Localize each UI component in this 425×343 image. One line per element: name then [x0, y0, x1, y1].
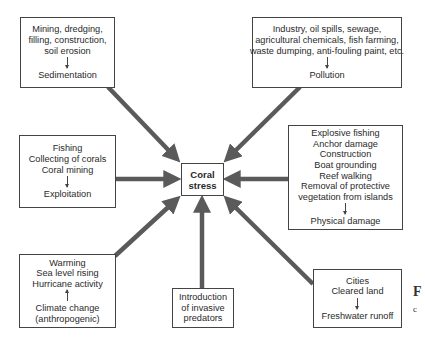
figure-caption-label: F — [413, 284, 422, 300]
cause-text: Reef walking — [319, 171, 372, 182]
cause-text: Boat grounding — [314, 160, 376, 171]
cause-text: Introduction — [179, 292, 227, 303]
cause-text: Fishing — [53, 143, 83, 154]
up-arrow-icon — [67, 290, 68, 301]
cause-text: Removal of protective — [301, 181, 390, 192]
center-text: stress — [189, 180, 217, 191]
result-text: Exploitation — [44, 189, 92, 200]
box-physical-damage: Explosive fishing Anchor damage Construc… — [288, 125, 403, 230]
result-text: (anthropogenic) — [35, 314, 99, 325]
down-arrow-icon — [345, 203, 346, 214]
result-text: Sedimentation — [38, 70, 97, 81]
result-text: Freshwater runoff — [322, 311, 394, 322]
cause-text: Coral mining — [42, 165, 94, 176]
cause-text: Mining, dredging, — [32, 24, 102, 35]
cause-text: Hurricane activity — [32, 279, 102, 290]
cause-text: Industry, oil spills, sewage, — [273, 24, 382, 35]
result-text: Pollution — [309, 70, 344, 81]
cause-text: Collecting of corals — [29, 154, 107, 165]
cause-text: Cleared land — [331, 286, 383, 297]
cause-text: waste dumping, anti-fouling paint, etc. — [250, 46, 404, 57]
cause-text: agricultural chemicals, fish farming, — [255, 35, 398, 46]
cause-text: Cities — [346, 276, 369, 287]
down-arrow-icon — [67, 176, 68, 187]
box-coral-stress: Coral stress — [181, 163, 224, 196]
box-exploitation: Fishing Collecting of corals Coral minin… — [19, 135, 116, 208]
down-arrow-icon — [67, 57, 68, 68]
arrow-climate-change — [115, 200, 176, 256]
cause-text: Construction — [320, 149, 372, 160]
center-text: Coral — [190, 169, 214, 180]
down-arrow-icon — [357, 298, 358, 309]
cause-text: Anchor damage — [313, 139, 378, 150]
result-text: Physical damage — [311, 216, 381, 227]
cause-text: Sea level rising — [36, 268, 98, 279]
cause-text: Warming — [49, 258, 85, 269]
cause-text: Explosive fishing — [311, 128, 379, 139]
cause-text: vegetation from islands — [298, 192, 392, 203]
cause-text: of invasive — [181, 303, 224, 314]
cause-text: soil erosion — [44, 46, 90, 57]
box-pollution: Industry, oil spills, sewage, agricultur… — [252, 17, 402, 88]
arrow-sedimentation — [108, 87, 176, 158]
cause-text: filling, construction, — [28, 35, 106, 46]
box-climate-change: Warming Sea level rising Hurricane activ… — [19, 254, 116, 328]
result-text: Climate change — [36, 303, 100, 314]
cause-text: predators — [184, 313, 223, 324]
box-invasive-predators: Introduction of invasive predators — [172, 288, 234, 328]
figure-caption-text: c — [413, 304, 417, 314]
box-sedimentation: Mining, dredging, filling, construction,… — [20, 17, 115, 88]
box-freshwater-runoff: Cities Cleared land Freshwater runoff — [313, 269, 402, 328]
down-arrow-icon — [327, 57, 328, 68]
